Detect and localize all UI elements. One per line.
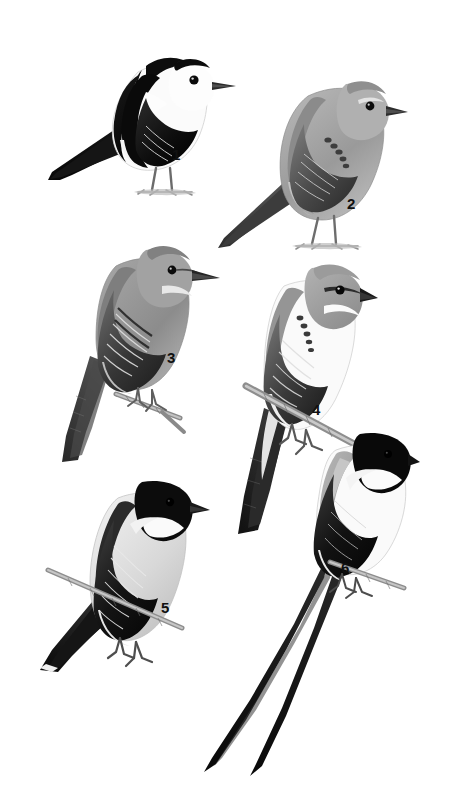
figure-label-2: 2 [347, 196, 355, 211]
figure-label-3: 3 [167, 350, 175, 365]
bird-figure-2 [212, 62, 404, 252]
bird-figure-5 [32, 472, 210, 692]
bird-figure-6 [190, 428, 420, 778]
figure-label-4: 4 [312, 402, 320, 417]
figure-label-5: 5 [161, 600, 169, 615]
illustration-plate: 1 [0, 0, 455, 803]
figure-label-1: 1 [172, 147, 180, 162]
figure-label-6: 6 [341, 560, 349, 575]
